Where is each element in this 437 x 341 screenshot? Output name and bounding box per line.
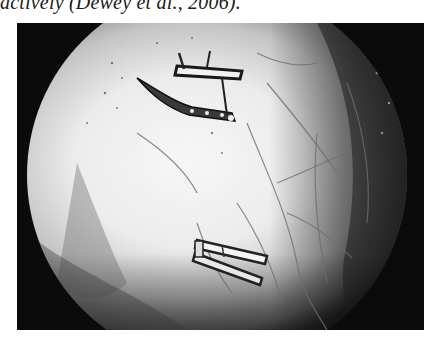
circular-field	[17, 23, 424, 330]
endoscopic-figure	[17, 23, 424, 330]
endoscopic-image	[17, 23, 424, 330]
body-text-fragment: actively (Dewey et al., 2006).	[0, 0, 241, 14]
